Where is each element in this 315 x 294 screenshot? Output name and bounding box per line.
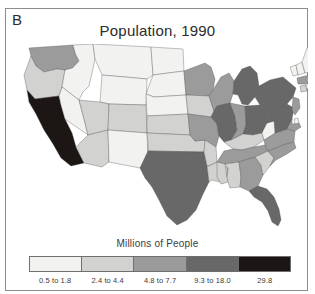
legend-swatch-2 [134,257,186,271]
state-nj: New Jersey [292,97,300,115]
legend-swatch-0 [30,257,82,271]
legend-swatch-4 [239,257,290,271]
legend-label-2: 4.8 to 7.7 [134,275,186,287]
state-ma: Massachusetts [297,75,308,84]
state-nd: North Dakota [151,47,184,75]
state-wy: Wyoming [100,75,147,105]
state-ri: Rhode Island [306,84,308,90]
legend-swatch-1 [82,257,134,271]
legend-label-3: 9.3 to 18.0 [186,275,238,287]
states-layer: WashingtonOregonCaliforniaIdahoNevadaMon… [24,44,308,226]
legend-labels: 0.5 to 1.82.4 to 4.44.8 to 7.79.3 to 18.… [29,275,291,287]
state-ne: Nebraska [146,94,188,116]
us-map-svg: WashingtonOregonCaliforniaIdahoNevadaMon… [9,44,308,236]
state-mn: Minnesota [184,63,215,96]
figure-panel: B Population, 1990 WashingtonOregonCalif… [0,0,315,294]
state-mt: Montana [93,44,153,79]
legend-swatch-3 [187,257,239,271]
legend-label-0: 0.5 to 1.8 [29,275,81,287]
legend-label-1: 2.4 to 4.4 [81,275,133,287]
legend-label-4: 29.8 [239,275,291,287]
choropleth-map: WashingtonOregonCaliforniaIdahoNevadaMon… [9,44,308,236]
state-nm: New Mexico [108,130,148,168]
state-co: Colorado [108,104,147,133]
state-tx: Texas [140,151,209,225]
state-fl: Florida [249,186,281,226]
state-de: Delaware [294,118,299,124]
state-al: Alabama [225,162,241,188]
state-ks: Kansas [147,114,190,135]
legend-title: Millions of People [0,238,315,249]
state-ct: Connecticut [300,85,307,92]
legend-color-bar [29,256,291,272]
state-mi: Michigan [233,66,259,105]
page-title: Population, 1990 [0,22,315,39]
